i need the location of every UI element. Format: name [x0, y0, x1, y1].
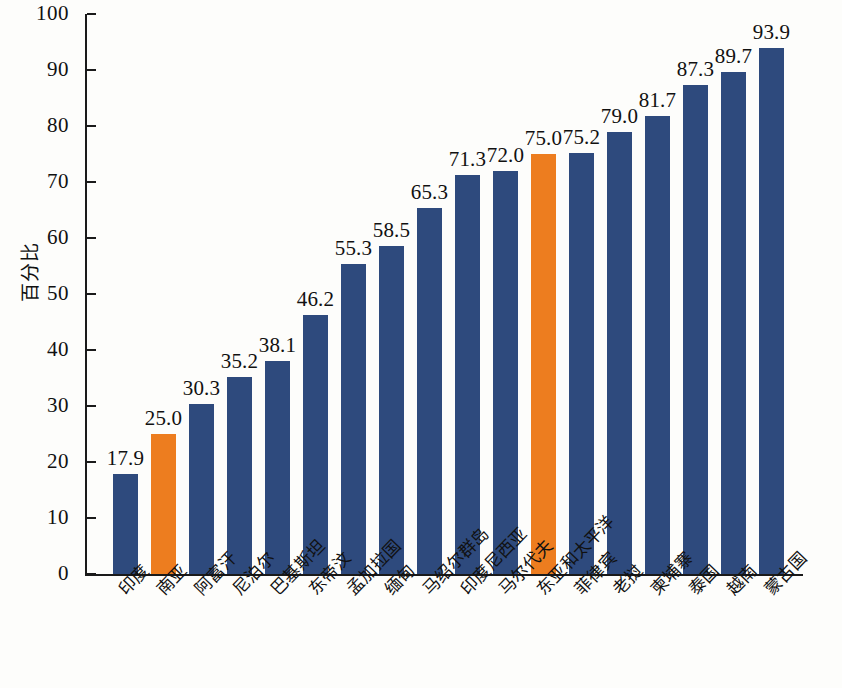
y-axis-tick-label: 30 [47, 393, 69, 418]
bar[interactable] [189, 404, 214, 574]
bar[interactable] [645, 116, 670, 574]
bar-group[interactable]: 72.0 [486, 14, 524, 574]
bar[interactable] [417, 208, 442, 574]
bar-group[interactable]: 35.2 [220, 14, 258, 574]
bar[interactable] [569, 153, 594, 574]
bar[interactable] [227, 377, 252, 574]
y-axis-tick-label: 0 [58, 561, 69, 586]
y-axis-tick-label: 50 [47, 281, 69, 306]
bar-value-label: 93.9 [743, 20, 800, 45]
bar[interactable] [607, 132, 632, 574]
bar[interactable] [759, 48, 784, 574]
y-axis-tick-label: 100 [36, 1, 69, 26]
bar[interactable] [531, 154, 556, 574]
bar-group[interactable]: 81.7 [638, 14, 676, 574]
bar[interactable] [303, 315, 328, 574]
bar-group[interactable]: 93.9 [752, 14, 790, 574]
y-axis-tick-label: 40 [47, 337, 69, 362]
bar[interactable] [493, 171, 518, 574]
bar[interactable] [379, 246, 404, 574]
y-axis-tick-label: 20 [47, 449, 69, 474]
y-axis-tick-label: 80 [47, 113, 69, 138]
plot-area: 17.925.030.335.238.146.255.358.565.371.3… [85, 14, 803, 574]
y-axis-tick-label: 70 [47, 169, 69, 194]
bar[interactable] [151, 434, 176, 574]
bar[interactable] [341, 264, 366, 574]
bar-group[interactable]: 87.3 [676, 14, 714, 574]
bar[interactable] [455, 175, 480, 574]
bar[interactable] [265, 361, 290, 574]
bar-group[interactable]: 75.0 [524, 14, 562, 574]
y-axis-title: 百分比 [15, 222, 42, 322]
bar-group[interactable]: 30.3 [182, 14, 220, 574]
bar-group[interactable]: 58.5 [372, 14, 410, 574]
bar-group[interactable]: 75.2 [562, 14, 600, 574]
bar-group[interactable]: 55.3 [334, 14, 372, 574]
y-axis-tick-label: 60 [47, 225, 69, 250]
x-axis-labels: 印度南亚阿富汗尼泊尔巴基斯坦东帝汶孟加拉国缅甸马绍尔群岛印度尼西亚马尔代夫东亚和… [85, 576, 803, 688]
bar-group[interactable]: 25.0 [144, 14, 182, 574]
bar-group[interactable]: 71.3 [448, 14, 486, 574]
chart-page: 百分比 0102030405060708090100 17.925.030.33… [0, 0, 842, 688]
bar-group[interactable]: 17.9 [106, 14, 144, 574]
y-axis-tick-label: 10 [47, 505, 69, 530]
bar[interactable] [683, 85, 708, 574]
bar-group[interactable]: 65.3 [410, 14, 448, 574]
bar-group[interactable]: 89.7 [714, 14, 752, 574]
y-axis-tick-label: 90 [47, 57, 69, 82]
bar-group[interactable]: 46.2 [296, 14, 334, 574]
bar[interactable] [721, 72, 746, 574]
